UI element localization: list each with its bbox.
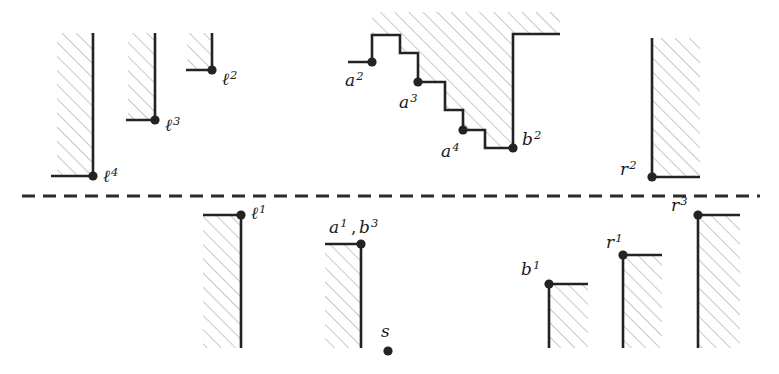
vertex-a1-b3 (356, 239, 365, 248)
obstacle-l3-hatching (128, 33, 155, 120)
label-l3: ℓ3 (165, 114, 180, 135)
vertex-r1 (618, 250, 627, 259)
label-l2: ℓ2 (222, 68, 237, 89)
obstacle-l2-hatching (187, 33, 212, 70)
vertex-b1 (544, 279, 553, 288)
obstacle-l1-hatching (203, 215, 241, 348)
vertex-l3 (150, 115, 159, 124)
hatching-layer (57, 12, 740, 348)
vertex-a2 (367, 57, 376, 66)
vertex-dots-layer (88, 57, 702, 355)
obstacle-l4-hatching (57, 33, 93, 176)
label-a2: a2 (345, 69, 363, 90)
obstacle-r3-hatching (698, 215, 740, 348)
label-r3: r3 (671, 194, 687, 215)
obstacle-a1-b3-hatching (325, 244, 361, 348)
label-a1b3_comma: , (351, 217, 356, 237)
vertex-r3 (693, 210, 702, 219)
figure-canvas: ℓ4ℓ3ℓ2a2a3a4b2r2ℓ1a1,b3sb1r1r3 (0, 0, 779, 374)
label-r2: r2 (620, 158, 636, 179)
label-a1b3_second: b3 (359, 216, 378, 237)
label-l4: ℓ4 (103, 165, 118, 186)
label-r1: r1 (606, 231, 622, 252)
label-a3: a3 (399, 91, 417, 112)
label-a4: a4 (441, 140, 459, 161)
obstacle-r1-hatching (623, 255, 662, 348)
vertex-r2 (647, 172, 656, 181)
label-a1b3_first: a1 (329, 216, 347, 237)
label-b2: b2 (522, 128, 541, 149)
vertex-labels-layer: ℓ4ℓ3ℓ2a2a3a4b2r2ℓ1a1,b3sb1r1r3 (103, 68, 687, 341)
obstacle-b1-hatching (549, 284, 588, 348)
vertex-a3 (413, 77, 422, 86)
vertex-b2 (508, 143, 517, 152)
vertex-a4 (458, 125, 467, 134)
vertex-l4 (88, 171, 97, 180)
vertex-l2 (207, 65, 216, 74)
obstacle-r2-hatching (652, 38, 700, 177)
vertex-s (383, 346, 392, 355)
label-l1: ℓ1 (251, 202, 266, 223)
label-s: s (381, 321, 390, 341)
label-b1: b1 (521, 258, 540, 279)
diagram-svg: ℓ4ℓ3ℓ2a2a3a4b2r2ℓ1a1,b3sb1r1r3 (0, 0, 779, 374)
vertex-l1 (236, 210, 245, 219)
